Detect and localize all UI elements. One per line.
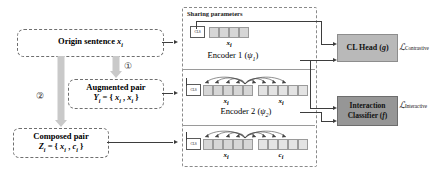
token-cell bbox=[243, 139, 253, 150]
loss-contrastive-label: ℒContrastive bbox=[399, 42, 429, 52]
token-cell bbox=[268, 139, 278, 150]
encoder2-divider bbox=[182, 125, 315, 126]
connector-augmented-arrowhead bbox=[174, 91, 178, 95]
composed-pair-formula: Zi = { xi , ci } bbox=[39, 141, 84, 155]
encoder2-rowB-left-tokens bbox=[203, 139, 253, 150]
step-one-marker: ① bbox=[124, 61, 132, 71]
token-cell bbox=[213, 139, 223, 150]
encoder2-rowA-strip: CLS bbox=[186, 84, 308, 96]
token-cell bbox=[278, 139, 288, 150]
loss-interactive-subscript: Interactive bbox=[405, 103, 427, 109]
token-cell bbox=[288, 85, 298, 96]
cl-head-label: CL Head (g) bbox=[346, 43, 388, 53]
flow-arrow-augment bbox=[109, 56, 122, 79]
loss-interactive-label: ℒInteractive bbox=[399, 100, 427, 110]
connector-composed-to-encoder2 bbox=[107, 142, 173, 143]
token-cell bbox=[223, 85, 233, 96]
encoder2-rowA-to-head bbox=[310, 60, 333, 61]
augmented-pair-box[interactable]: Augmented pair Yi = { xi , xi } bbox=[68, 79, 164, 109]
augmented-pair-formula: Yi = { xi , xi } bbox=[93, 92, 138, 106]
token-cell bbox=[203, 85, 213, 96]
encoder2-rowA-right-caption: xi bbox=[256, 97, 306, 107]
interaction-classifier-line1: Interaction bbox=[350, 101, 386, 111]
flow-arrow-compose bbox=[54, 56, 67, 129]
token-cell bbox=[243, 85, 253, 96]
encoder1-out-hline bbox=[196, 21, 322, 22]
encoder2-rowB-out-vline bbox=[186, 132, 187, 140]
composed-pair-box[interactable]: Composed pair Zi = { xi , ci } bbox=[13, 128, 109, 158]
encoder1-tokens bbox=[209, 27, 249, 38]
cls-token-encoder2-rowB: CLS bbox=[186, 138, 201, 150]
encoder2-rowA-out-vline bbox=[186, 78, 187, 86]
diagram-canvas: Sharing parameters Origin sentence xi Au… bbox=[0, 0, 439, 172]
composed-pair-label: Composed pair bbox=[33, 131, 89, 142]
cls-token-encoder2-rowA: CLS bbox=[186, 84, 201, 96]
augmented-pair-label: Augmented pair bbox=[86, 82, 145, 93]
rowB-bus-feed bbox=[300, 112, 322, 113]
connector-composed-arrowhead bbox=[174, 140, 178, 144]
token-cell bbox=[298, 85, 308, 96]
cl-head-box[interactable]: CL Head (g) bbox=[337, 34, 398, 62]
encoder2-rowB-right-tokens bbox=[258, 139, 308, 150]
token-cell bbox=[268, 85, 278, 96]
token-cell bbox=[239, 27, 249, 38]
connector-origin-to-encoder1 bbox=[162, 42, 173, 43]
connector-bus-to-classifier bbox=[310, 108, 333, 109]
interaction-classifier-box[interactable]: Interaction Classifier (f) bbox=[337, 96, 398, 126]
encoder2-rowA-bus-feed bbox=[300, 60, 311, 61]
token-cell bbox=[233, 139, 243, 150]
token-cell bbox=[298, 139, 308, 150]
rowB-bus bbox=[321, 112, 322, 122]
token-cell bbox=[258, 139, 268, 150]
origin-sentence-box[interactable]: Origin sentence xi bbox=[17, 29, 164, 57]
encoder2-rowB-left-caption: xi bbox=[201, 151, 251, 161]
encoder1-out-vline bbox=[196, 21, 197, 29]
token-cell bbox=[213, 85, 223, 96]
encoder2-rowA-left-tokens bbox=[203, 85, 253, 96]
sharing-parameters-label: Sharing parameters bbox=[187, 10, 242, 17]
encoder2-rowA-bus bbox=[310, 60, 311, 108]
connector-augmented-to-encoder2 bbox=[162, 93, 173, 94]
token-cell bbox=[219, 27, 229, 38]
encoder1-group: CLS xi Encoder 1 (ψ1) bbox=[190, 26, 276, 62]
token-cell bbox=[229, 27, 239, 38]
token-cell bbox=[233, 85, 243, 96]
encoder1-out-to-head bbox=[321, 44, 333, 45]
encoder2-group: CLS xi xi bbox=[186, 84, 308, 118]
token-cell bbox=[209, 27, 219, 38]
loss-contrastive-subscript: Contrastive bbox=[405, 45, 429, 51]
encoder1-token-strip: CLS bbox=[190, 26, 276, 38]
step-two-marker: ② bbox=[36, 91, 44, 101]
token-cell bbox=[288, 139, 298, 150]
token-cell bbox=[203, 139, 213, 150]
encoder2-rowB-group: CLS xi ci bbox=[186, 138, 308, 160]
encoder2-rowB-strip: CLS bbox=[186, 138, 308, 150]
encoder1-token-caption: xi bbox=[207, 39, 251, 49]
token-cell bbox=[223, 139, 233, 150]
origin-sentence-label: Origin sentence xi bbox=[58, 36, 123, 50]
rowB-to-classifier bbox=[321, 121, 333, 122]
encoder2-rowB-right-caption: ci bbox=[256, 151, 306, 161]
cls-token-encoder1: CLS bbox=[190, 26, 205, 38]
interaction-classifier-line2: Classifier (f) bbox=[348, 111, 388, 121]
encoder-divider bbox=[182, 69, 315, 70]
encoder1-label: Encoder 1 (ψ1) bbox=[190, 50, 276, 62]
encoder1-out-down bbox=[321, 21, 322, 44]
encoder2-rowA-right-tokens bbox=[258, 85, 308, 96]
connector-origin-arrowhead bbox=[174, 40, 178, 44]
encoder2-rowA-left-caption: xi bbox=[201, 97, 251, 107]
token-cell bbox=[278, 85, 288, 96]
token-cell bbox=[258, 85, 268, 96]
encoder2-label: Encoder 2 (ψ2) bbox=[186, 106, 306, 118]
